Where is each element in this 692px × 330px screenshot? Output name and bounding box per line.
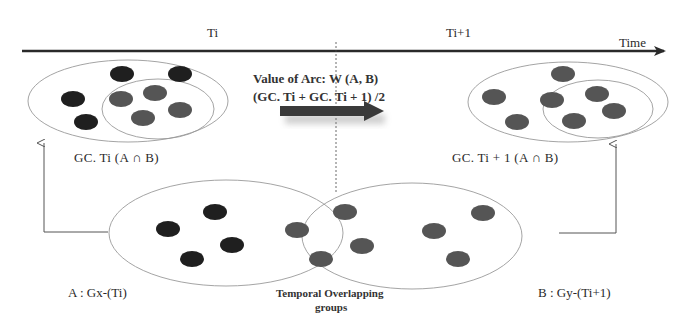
node-grey: [446, 251, 470, 267]
group-a-label: A : Gx-(Ti): [68, 285, 127, 300]
node-dark: [180, 251, 204, 267]
group-a: A : Gx-(Ti): [68, 180, 343, 300]
node-grey: [585, 86, 609, 102]
connector-b-to-right-snapshot: [559, 144, 616, 233]
node-dark: [203, 204, 227, 220]
node-dark: [61, 91, 85, 107]
node-dark: [168, 66, 192, 82]
node-grey: [540, 92, 564, 108]
node-dark: [74, 114, 98, 130]
time-axis: Ti Ti+1 Time: [22, 25, 664, 51]
arc-formula-line1: Value of Arc: W (A, B): [253, 71, 378, 86]
node-grey: [422, 223, 446, 239]
node-grey: [482, 89, 506, 105]
overlap-region: Temporal Overlapping groups: [276, 204, 384, 313]
node-dark: [156, 221, 180, 237]
overlap-label-line1: Temporal Overlapping: [276, 287, 384, 299]
node-grey: [350, 238, 374, 254]
period-label-ti: Ti: [207, 25, 218, 40]
group-b-label: B : Gy-(Ti+1): [538, 285, 611, 300]
period-label-ti-plus-1: Ti+1: [446, 25, 471, 40]
node-dark: [110, 66, 134, 82]
node-grey: [109, 91, 133, 107]
right-snapshot-group: GC. Ti + 1 (A ∩ B): [452, 62, 668, 165]
node-grey: [131, 110, 155, 126]
left-snapshot-group: GC. Ti (A ∩ B): [28, 60, 228, 165]
node-grey: [309, 251, 333, 267]
time-axis-label: Time: [619, 35, 646, 50]
arc-weight-annotation: Value of Arc: W (A, B) (GC. Ti + GC. Ti …: [253, 71, 385, 124]
node-grey: [471, 205, 495, 221]
right-snapshot-label: GC. Ti + 1 (A ∩ B): [452, 150, 558, 165]
node-grey: [505, 114, 529, 130]
node-grey: [285, 222, 309, 238]
node-dark: [220, 237, 244, 253]
node-grey: [143, 85, 167, 101]
group-b-ellipse: [302, 183, 522, 289]
group-b: B : Gy-(Ti+1): [302, 183, 611, 300]
node-grey: [602, 103, 626, 119]
temporal-overlap-diagram: Ti Ti+1 Time GC. Ti (A ∩ B) GC. Ti + 1 (…: [0, 0, 692, 330]
node-grey: [168, 102, 192, 118]
node-grey: [551, 66, 575, 82]
node-grey: [562, 113, 586, 129]
left-snapshot-label: GC. Ti (A ∩ B): [74, 150, 159, 165]
node-grey: [333, 204, 357, 220]
overlap-label-line2: groups: [315, 301, 348, 313]
